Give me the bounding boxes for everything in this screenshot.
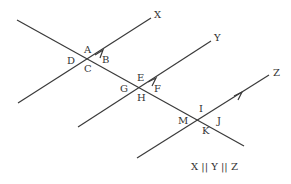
parallel-caption: X || Y || Z: [191, 161, 238, 173]
angle-label-b: B: [102, 54, 109, 65]
transversal-line: [17, 20, 244, 146]
angle-label-i: I: [199, 103, 203, 114]
line-x: [18, 18, 151, 103]
angle-label-j: J: [216, 115, 221, 126]
angle-label-c: C: [84, 63, 92, 74]
arrow-icon-z: [234, 92, 242, 100]
angle-label-e: E: [137, 72, 144, 83]
line-y: [78, 41, 211, 127]
angle-label-f: F: [154, 83, 161, 94]
line-y-label: Y: [213, 32, 221, 43]
angle-label-h: H: [137, 92, 146, 103]
line-x-label: X: [154, 9, 162, 20]
angle-label-d: D: [67, 55, 75, 66]
parallel-lines-diagram: X Y Z A B C D E F G H I J K M X || Y || …: [0, 0, 291, 184]
angle-label-m: M: [178, 115, 188, 126]
angle-label-k: K: [202, 125, 210, 136]
angle-label-g: G: [120, 83, 128, 94]
line-z-label: Z: [273, 67, 280, 78]
angle-label-a: A: [83, 44, 92, 55]
